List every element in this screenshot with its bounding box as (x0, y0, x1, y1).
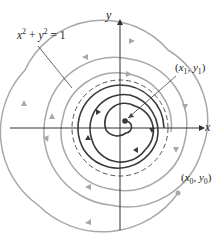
eq-plus: + (29, 29, 36, 41)
eq-equals-one: = 1 (50, 29, 65, 41)
inner-start-point (122, 118, 128, 124)
x-axis-label: x (205, 121, 210, 133)
outer-arrowheads (21, 38, 188, 225)
eq-x-exponent: 2 (22, 27, 26, 36)
paren-close: ) (202, 61, 206, 73)
limit-cycle-equation-label: x2 + y2 = 1 (17, 30, 66, 42)
phase-portrait-figure: x2 + y2 = 1 y x (x1, y1) (x0, y0) (0, 0, 220, 243)
paren-close: ) (208, 171, 212, 183)
outer-spiral-trajectory (0, 20, 207, 232)
y-axis-label: y (106, 9, 111, 21)
inner-point-label: (x1, y1) (175, 62, 205, 73)
limit-cycle-leader-line (38, 46, 72, 88)
outer-start-point (176, 191, 181, 196)
eq-y-exponent: 2 (44, 27, 48, 36)
outer-point-label: (x0, y0) (181, 172, 211, 183)
